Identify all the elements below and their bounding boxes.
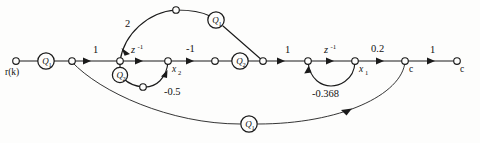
gain-circle-q1-bottom: Q 1 (241, 116, 257, 132)
arrowhead-gain-1c (427, 57, 435, 64)
node-x1 (352, 58, 359, 65)
arrowhead-gain-zinv2 (326, 57, 334, 64)
nodes-group (13, 7, 461, 91)
arrowhead-gain-point2 (376, 57, 384, 64)
branch-top-arc-mid (176, 10, 210, 16)
gain-circle-subscript: 2 (123, 75, 126, 82)
gain-label-neg-0-5: -0.5 (164, 86, 181, 97)
gain-label-point-2: 0.2 (371, 43, 384, 54)
branch-x1-feedback-loop (308, 62, 355, 86)
gain-circle-subscript: 1 (49, 61, 52, 68)
node-label-r: r(k) (5, 67, 19, 78)
gain-circle-q1-top: Q 1 (208, 12, 224, 28)
node-4 (212, 58, 219, 65)
node-label-x1: x (358, 64, 364, 74)
node-5 (260, 58, 267, 65)
node-1 (69, 58, 76, 65)
node-x2 (165, 58, 172, 65)
arrowhead-x1-feedback (304, 66, 311, 74)
gain-label-zinv-1: z (130, 44, 135, 55)
node-label-x2-subscript: 2 (178, 69, 181, 76)
arrowhead-gain-zinv1 (135, 57, 143, 64)
node-6 (305, 58, 312, 65)
node-r (13, 58, 20, 65)
node-label-c1: c (409, 64, 413, 74)
gain-label-2: 2 (125, 18, 130, 29)
arrowhead-gain-1a (83, 57, 91, 64)
gain-label-neg-0-368: -0.368 (312, 88, 339, 99)
gain-circle-q1-input: Q 1 (38, 53, 54, 69)
arrowhead-top-arc (122, 48, 131, 56)
gain-circle-subscript: 1 (252, 124, 255, 131)
gain-circle-subscript: 1 (219, 20, 222, 27)
gain-label-1b: 1 (285, 44, 290, 55)
signal-flow-graph-figure: Q 1 Q 2 Q 1 Q 2 Q 1 (0, 0, 480, 143)
gain-circle-q2-mainline: Q 2 (232, 53, 248, 69)
node-top-mid (173, 7, 180, 14)
branch-bottom-arc-left (72, 62, 240, 124)
gain-label-1a: 1 (93, 44, 98, 55)
gain-label-zinv-2-exponent: -1 (331, 43, 337, 51)
node-q2-loop-mid (140, 84, 147, 91)
gain-label-zinv-2: z (323, 44, 328, 55)
gain-label-neg-1: -1 (186, 43, 195, 54)
gain-label-zinv-1-exponent: -1 (138, 43, 144, 51)
node-2 (117, 58, 124, 65)
node-c1 (402, 58, 409, 65)
node-label-c2: c (460, 64, 464, 74)
arrowhead-q2-loop (161, 70, 168, 78)
arrowhead-gain-neg1 (186, 57, 194, 64)
x1-feedback-loop-group (304, 62, 355, 86)
gain-circle-subscript: 2 (243, 61, 246, 68)
gain-circle-q2-loop: Q 2 (112, 67, 127, 82)
gain-label-1c: 1 (430, 44, 435, 55)
signal-flow-graph-canvas: Q 1 Q 2 Q 1 Q 2 Q 1 (0, 0, 480, 143)
node-label-x1-subscript: 1 (365, 69, 368, 76)
arrowhead-gain-1b (277, 57, 285, 64)
node-label-x2: x (171, 64, 177, 74)
